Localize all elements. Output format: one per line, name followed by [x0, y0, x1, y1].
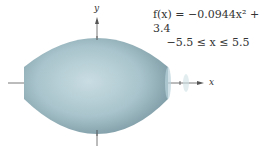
equation: f(x) = −0.0944x² + 3.4 — [147, 8, 269, 36]
x-axis-arrow-icon — [197, 81, 204, 85]
solid-body — [24, 38, 168, 134]
solid-end-face — [165, 67, 171, 99]
y-axis-label: y — [94, 3, 99, 13]
function-definition: f(x) = −0.0944x² + 3.4 −5.5 ≤ x ≤ 5.5 — [147, 8, 269, 50]
y-axis-arrow-icon — [95, 17, 99, 24]
solid-of-revolution-figure: y x f(x) = −0.0944x² + 3.4 −5.5 ≤ x ≤ 5.… — [0, 0, 269, 148]
rotation-indicator — [183, 74, 189, 92]
domain: −5.5 ≤ x ≤ 5.5 — [147, 36, 269, 50]
x-axis-label: x — [209, 77, 214, 87]
